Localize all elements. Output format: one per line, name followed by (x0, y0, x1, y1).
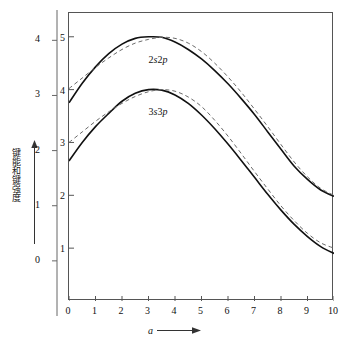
chart-figure: 键能和键强度 01234 12345 2s2p3s3p 012345678910… (0, 0, 347, 348)
curve-annotation-2s2p: 2s2p (149, 54, 168, 65)
outer-y-tick-label: 2 (26, 144, 40, 155)
x-tick-label: 2 (119, 305, 124, 316)
inner-y-tick-label: 4 (60, 84, 69, 95)
inner-y-tick-label: 1 (60, 243, 69, 254)
x-tick-label: 7 (251, 305, 256, 316)
x-tick-label: 3 (145, 305, 150, 316)
x-axis-caption: a (148, 325, 201, 336)
inner-y-tick-label: 3 (60, 137, 69, 148)
x-tick-label: 0 (66, 305, 71, 316)
x-tick-label: 1 (92, 305, 97, 316)
x-tick-label: 8 (278, 305, 283, 316)
x-tick-label: 5 (198, 305, 203, 316)
outer-y-tick-label: 4 (26, 33, 40, 44)
x-axis-caption-label: a (148, 325, 153, 336)
inner-y-tick-label: 5 (60, 31, 69, 42)
x-tick-label: 6 (225, 305, 230, 316)
arrow-right-icon (157, 326, 201, 335)
x-tick-label: 4 (172, 305, 177, 316)
curve-annotation-3s3p: 3s3p (149, 106, 168, 117)
inner-y-tick-label: 2 (60, 190, 69, 201)
outer-y-tick-label: 0 (26, 254, 40, 265)
outer-y-tick-label: 3 (26, 88, 40, 99)
y-axis-caption: 键能和键强度 (8, 148, 24, 206)
outer-y-tick-label: 1 (26, 199, 40, 210)
y-axis-caption-label: 键能和键强度 (11, 148, 21, 202)
x-tick-label: 9 (304, 305, 309, 316)
x-tick-label: 10 (328, 305, 338, 316)
plot-area: 12345 2s2p3s3p (68, 12, 333, 300)
outer-y-axis: 01234 (44, 10, 58, 316)
